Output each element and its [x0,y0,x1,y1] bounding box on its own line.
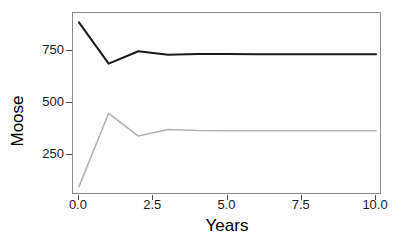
y-tick-mark [66,154,72,155]
x-tick-mark [78,195,79,200]
plot-panel [72,12,381,194]
x-tick-mark [227,195,228,200]
y-tick-mark [66,102,72,103]
series-line-upper-trajectory [79,22,376,63]
x-tick-mark [375,195,376,200]
x-tick-mark [301,195,302,200]
moose-population-chart: Moose 250500750 0.02.55.07.510.0 Years [0,0,400,242]
x-axis-title: Years [72,216,382,236]
y-tick-label: 250 [30,147,64,160]
x-tick-mark [152,195,153,200]
series-line-lower-trajectory [79,113,376,186]
y-tick-label: 500 [30,95,64,108]
plot-area [73,13,382,195]
y-tick-mark [66,50,72,51]
y-tick-label: 750 [30,43,64,56]
